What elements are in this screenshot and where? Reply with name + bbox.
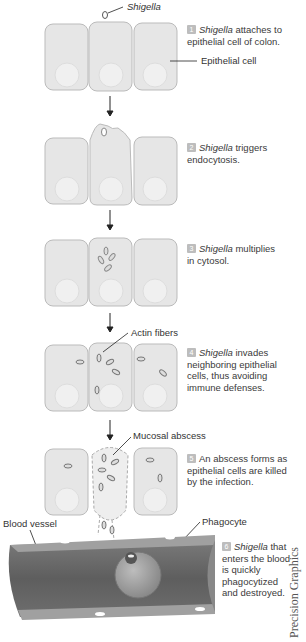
cell-row-4	[45, 343, 177, 411]
cell-row-3	[45, 238, 177, 306]
credit-text: Precision Graphics	[287, 543, 302, 642]
step-badge: 6	[222, 542, 231, 551]
label-phagocyte: Phagocyte	[202, 516, 247, 527]
label-blood-vessel: Blood vessel	[3, 518, 57, 529]
label-shigella: Shigella	[127, 1, 161, 12]
cell-row-2	[45, 124, 177, 205]
step-badge: 4	[187, 348, 196, 357]
step-4: 4Shigella invadesneighboring epithelialc…	[187, 347, 277, 393]
step-5: 5An abscess forms asepithelial cells are…	[187, 453, 287, 488]
step-1: 1Shigella attaches toepithelial cell of …	[187, 24, 282, 47]
step-3: 3Shigella multipliesin cytosol.	[187, 243, 275, 266]
label-mucosal-abscess: Mucosal abscess	[133, 430, 206, 441]
step-6: 6Shigella thatenters the bloodis quickly…	[222, 541, 290, 599]
cell-row-5	[45, 448, 177, 541]
step-badge: 1	[187, 25, 196, 34]
label-actin-fibers: Actin fibers	[131, 327, 178, 338]
cell-row-1	[45, 22, 177, 91]
blood-vessel-graphic	[9, 535, 215, 621]
shigella-bacterium	[103, 12, 108, 19]
phagocyte-graphic	[115, 552, 161, 598]
step-badge: 5	[187, 454, 196, 463]
step-2: 2Shigella triggersendocytosis.	[187, 142, 267, 165]
step-badge: 3	[187, 244, 196, 253]
label-epithelial-cell: Epithelial cell	[201, 55, 256, 66]
step-badge: 2	[187, 143, 196, 152]
